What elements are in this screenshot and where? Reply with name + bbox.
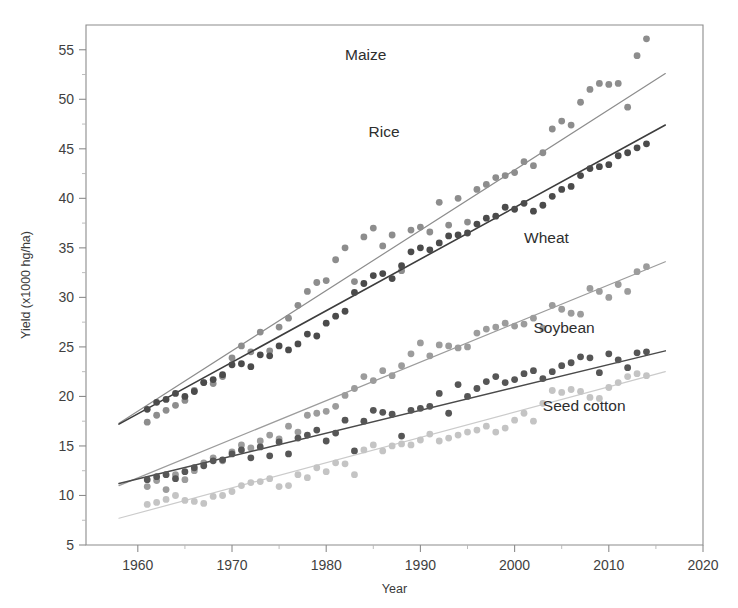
data-point [360,447,367,454]
y-tick-label-10: 10 [58,487,74,503]
data-point [521,200,528,207]
series-label-wheat: Wheat [524,229,569,246]
data-point [398,262,405,269]
data-point [379,270,386,277]
data-point [417,224,424,231]
data-point [370,442,377,449]
data-point [577,172,584,179]
data-point [643,348,650,355]
data-point [455,232,462,239]
data-point [615,356,622,363]
data-point [539,149,546,156]
data-point [596,163,603,170]
chart-figure: 5101520253035404550551960197019801990200… [0,0,738,608]
data-point [360,280,367,287]
data-point [304,474,311,481]
data-point [530,418,537,425]
data-point [408,442,415,449]
data-point [379,448,386,455]
data-point [464,429,471,436]
data-point [492,324,499,331]
data-point [342,244,349,251]
data-point [549,387,556,394]
data-point [163,496,170,503]
data-point [615,80,622,87]
data-point [389,443,396,450]
data-point [624,149,631,156]
data-point [483,181,490,188]
data-point [360,373,367,380]
data-point [408,227,415,234]
data-point [558,362,565,369]
data-point [530,162,537,169]
data-point [238,360,245,367]
data-point [342,417,349,424]
data-point [474,330,481,337]
data-point [398,433,405,440]
data-point [615,281,622,288]
data-point [332,313,339,320]
data-point [266,352,273,359]
data-point [483,423,490,430]
data-point [153,412,160,419]
data-point [360,234,367,241]
data-point [408,350,415,357]
data-point [398,441,405,448]
data-point [483,378,490,385]
data-point [417,244,424,251]
data-point [172,475,179,482]
data-point [332,256,339,263]
data-point [153,399,160,406]
data-point [304,432,311,439]
data-point [163,486,170,493]
data-point [285,450,292,457]
data-point [313,333,320,340]
data-point [295,435,302,442]
data-point [568,386,575,393]
data-point [558,306,565,313]
data-point [313,279,320,286]
x-tick-label-2010: 2010 [593,557,624,573]
data-point [389,232,396,239]
data-point [172,390,179,397]
data-point [238,482,245,489]
data-point [210,493,217,500]
y-tick-label-15: 15 [58,438,74,454]
data-point [285,315,292,322]
data-point [502,204,509,211]
data-point [558,389,565,396]
data-point [605,384,612,391]
data-point [436,199,443,206]
data-point [634,52,641,59]
y-tick-label-45: 45 [58,141,74,157]
data-point [360,418,367,425]
data-point [436,438,443,445]
data-point [342,460,349,467]
data-point [238,343,245,350]
series-label-maize: Maize [345,46,386,63]
data-point [521,321,528,328]
data-point [351,278,358,285]
data-point [389,411,396,418]
y-tick-label-25: 25 [58,339,74,355]
data-point [182,497,189,504]
data-point [276,439,283,446]
data-point [229,361,236,368]
data-point [191,388,198,395]
data-point [417,340,424,347]
data-point [492,429,499,436]
data-point [549,302,556,309]
data-point [210,457,217,464]
data-point [492,213,499,220]
data-point [587,86,594,93]
data-point [426,403,433,410]
data-point [436,342,443,349]
data-point [492,174,499,181]
data-point [436,240,443,247]
data-point [426,352,433,359]
data-point [285,423,292,430]
data-point [643,140,650,147]
data-point [295,429,302,436]
data-point [502,320,509,327]
data-point [615,379,622,386]
